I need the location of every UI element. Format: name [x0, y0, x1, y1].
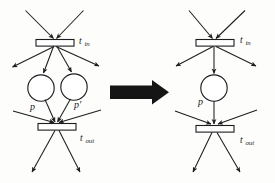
transition-t-in-right: [196, 40, 234, 47]
label-t-out-right: t: [240, 135, 243, 145]
arc-p-to-tout: [45, 100, 55, 123]
petri-net-transformation-figure: t in p p' t out: [0, 0, 275, 183]
right-tout-output-arcs: [193, 133, 240, 173]
arc-p-prime-to-tout: [58, 99, 71, 122]
place-p-left: [28, 75, 54, 101]
transition-t-in-left: [36, 40, 74, 47]
place-p-right: [201, 75, 227, 101]
label-t-in-sub-right: in: [245, 39, 251, 46]
label-place-p-prime-left: p': [73, 99, 82, 110]
label-place-p-right: p: [197, 96, 203, 107]
arc-tout-in-left: [13, 111, 54, 123]
arc-tout-out-left-right: [193, 133, 212, 173]
right-petri-net: t in p t out: [175, 11, 257, 173]
label-t-out-left: t: [80, 133, 83, 143]
right-tout-input-arcs: [175, 110, 257, 124]
label-t-out-sub-right: out: [245, 139, 255, 146]
transform-arrow-group: [110, 80, 169, 105]
arc-out-lower-right-right: [216, 47, 256, 67]
right-tin-input-arcs: [189, 11, 245, 39]
arc-tout-in-right-right: [218, 110, 257, 124]
arc-tout-out-left: [32, 131, 55, 173]
left-tin-output-arcs: [13, 47, 100, 68]
left-tout-output-arcs: [32, 131, 80, 173]
right-tin-output-arcs: [176, 47, 256, 67]
arc-in-upper-right: [57, 11, 84, 39]
transformation-arrow: [110, 80, 169, 105]
arc-tout-in-left-right: [175, 111, 211, 124]
arc-out-lower-left: [13, 47, 55, 68]
label-t-in-right: t: [240, 35, 243, 45]
label-t-in-sub-left: in: [84, 40, 90, 47]
arc-in-upper-left-right: [189, 11, 213, 39]
left-places-to-tout-arcs: [45, 99, 71, 122]
place-p-prime-left: [61, 74, 87, 100]
diagram-canvas: t in p p' t out: [0, 0, 275, 183]
label-place-p-left: p: [29, 101, 35, 112]
left-tin-input-arcs: [26, 11, 84, 39]
arc-tout-out-right: [59, 131, 80, 173]
label-t-in-left: t: [79, 36, 82, 46]
transition-t-out-right: [196, 126, 234, 133]
left-tin-to-places-arcs: [44, 47, 72, 74]
transition-t-out-left: [38, 124, 76, 131]
left-petri-net: t in p p' t out: [13, 11, 102, 173]
arc-tout-out-right-right: [217, 133, 240, 173]
arc-out-lower-left-right: [176, 47, 213, 67]
arc-tout-in-right: [59, 110, 101, 123]
left-tout-input-arcs: [13, 110, 101, 123]
arc-in-upper-left: [26, 11, 54, 39]
label-t-out-sub-left: out: [85, 137, 95, 144]
